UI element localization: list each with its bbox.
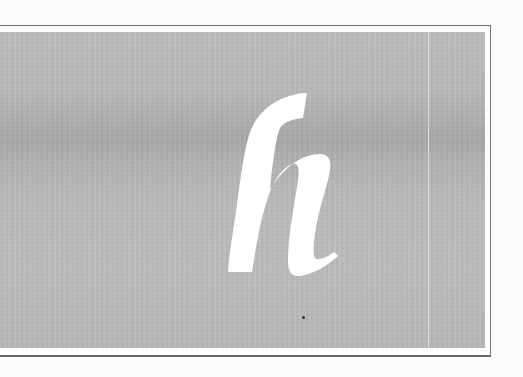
letter-h-glyph	[0, 32, 485, 348]
gray-photo-panel	[0, 32, 485, 348]
dust-speck	[302, 316, 305, 319]
